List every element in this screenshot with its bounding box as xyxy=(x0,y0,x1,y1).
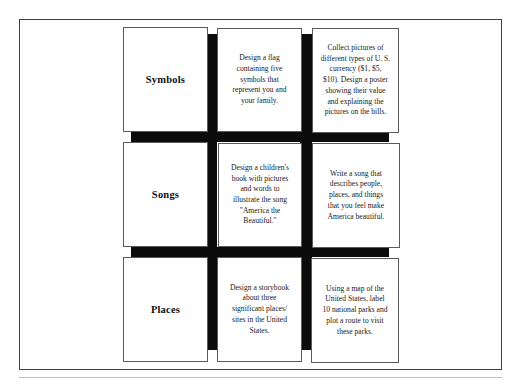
task-line: about three xyxy=(230,293,289,304)
task-line: pictures on the bills. xyxy=(321,107,390,118)
task-line: Beautiful." xyxy=(231,216,289,227)
task-line: Design a storybook xyxy=(230,283,289,294)
task-line: sites in the United xyxy=(230,315,289,326)
task-card-places-2: Using a map of the United States, label … xyxy=(311,258,399,363)
task-line: book with pictures xyxy=(231,174,289,185)
task-line: represent you and xyxy=(233,85,287,96)
task-line: 10 national parks and xyxy=(322,305,387,316)
task-line: "America the xyxy=(231,206,289,217)
task-card-places-1: Design a storybook about three significa… xyxy=(217,257,302,362)
row-label-places: Places xyxy=(123,257,208,362)
row-label-symbols: Symbols xyxy=(123,27,208,132)
task-line: Design a children's xyxy=(231,163,289,174)
task-card-symbols-1: Design a flag containing five symbols th… xyxy=(217,28,302,132)
task-line: Design a flag xyxy=(233,53,287,64)
task-line: America beautiful. xyxy=(328,212,385,223)
task-line: and explaining the xyxy=(321,97,390,108)
task-line: showing their value xyxy=(321,86,390,97)
row-label-text: Places xyxy=(151,304,180,315)
task-line: States. xyxy=(230,326,289,337)
task-line: describes people, xyxy=(328,179,385,190)
task-line: plot a route to visit xyxy=(322,316,387,327)
task-line: United States, label xyxy=(322,294,387,305)
row-label-text: Songs xyxy=(152,189,179,200)
task-line: Using a map of the xyxy=(322,284,387,295)
task-card-symbols-2: Collect pictures of different types of U… xyxy=(312,28,399,133)
row-label-songs: Songs xyxy=(123,142,208,247)
task-line: that you feel make xyxy=(328,201,385,212)
task-line: and words to xyxy=(231,184,289,195)
task-card-songs-1: Design a children's book with pictures a… xyxy=(218,143,302,247)
task-line: significant places/ xyxy=(230,304,289,315)
task-card-songs-2: Write a song that describes people, plac… xyxy=(312,143,400,248)
horizontal-bar-bottom xyxy=(131,247,389,257)
task-line: Collect pictures of xyxy=(321,43,390,54)
task-line: Write a song that xyxy=(328,169,385,180)
task-line: different types of U. S. xyxy=(321,54,390,65)
task-line: places, and things xyxy=(328,190,385,201)
task-line: these parks. xyxy=(322,327,387,338)
task-line: $10). Design a poster xyxy=(321,75,390,86)
task-line: illustrate the song xyxy=(231,195,289,206)
task-line: containing five xyxy=(233,64,287,75)
divider-rule xyxy=(19,377,502,378)
task-line: your family. xyxy=(233,96,287,107)
task-line: symbols that xyxy=(233,75,287,86)
row-label-text: Symbols xyxy=(146,74,185,85)
task-line: currency ($1, $5, xyxy=(321,64,390,75)
